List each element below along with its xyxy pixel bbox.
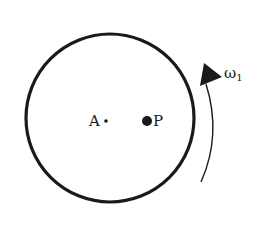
rotation-arrowhead-icon — [200, 63, 222, 86]
omega-subscript: 1 — [236, 72, 242, 83]
omega-symbol: ω — [224, 64, 236, 82]
point-p — [142, 116, 152, 126]
label-p: P — [153, 112, 163, 130]
rotating-disk-diagram: A P ω1 — [0, 0, 261, 239]
rotation-arrow-arc — [201, 84, 213, 182]
center-point-a — [104, 119, 108, 123]
label-omega: ω1 — [224, 64, 243, 83]
disk-outline — [26, 34, 194, 202]
label-a: A — [88, 112, 100, 130]
